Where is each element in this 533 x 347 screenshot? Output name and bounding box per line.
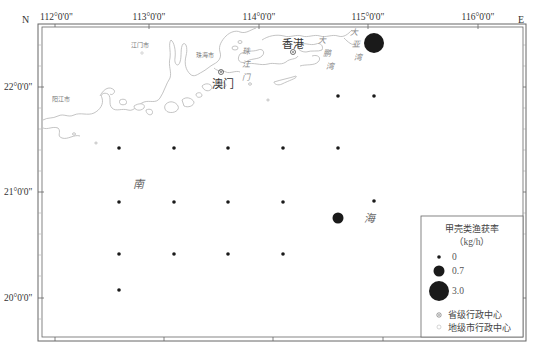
label-dapeng-2: 鹏 (323, 49, 332, 58)
label-hongkong: 香港 (282, 38, 304, 51)
provincial-center-legend-dot (438, 314, 439, 315)
label-daya-3: 湾 (354, 53, 364, 62)
label-zhuhai: 珠海市 (196, 51, 214, 59)
crustacean-catch-rate-map: N E 112°0'0" 113°0'0" 114°0'0" 115°0'0" … (0, 0, 533, 347)
legend-size-0-7-label: 0.7 (452, 266, 464, 276)
label-dapeng-3: 湾 (326, 62, 336, 71)
station-point (117, 288, 121, 292)
lat-tick-20: 20°0'0" (4, 293, 33, 303)
stations (117, 33, 384, 292)
station-point (226, 252, 230, 256)
lat-tick-21: 21°0'0" (4, 187, 33, 197)
station-point-3-0 (364, 33, 384, 53)
station-point-0-7 (333, 213, 344, 224)
label-daya-1: 大 (350, 28, 359, 37)
station-point (172, 200, 176, 204)
label-jiangmen: 江门市 (131, 41, 149, 49)
place-labels: 江门市 珠海市 阳江市 澳门 香港 珠 江 门 大 鹏 湾 大 亚 湾 南 海 (52, 28, 377, 225)
station-point (172, 252, 176, 256)
label-daya-2: 亚 (352, 40, 362, 49)
lon-tick-116: 116°0'0" (462, 12, 495, 22)
lon-tick-115: 115°0'0" (352, 12, 385, 22)
north-label: N (22, 14, 29, 25)
legend-size-3-0-icon (429, 281, 449, 301)
lat-tick-22: 22°0'0" (4, 82, 33, 92)
label-macau: 澳门 (212, 77, 234, 91)
label-south: 南 (133, 178, 146, 191)
station-point (372, 199, 376, 203)
station-point (281, 146, 285, 150)
station-point (117, 252, 121, 256)
lon-tick-114: 114°0'0" (243, 12, 276, 22)
coastline (43, 28, 356, 138)
label-sea: 海 (364, 212, 377, 225)
legend-title: 甲壳类渔获率 (445, 223, 499, 234)
legend-prefecture-center: 地级市行政中心 (448, 322, 511, 333)
station-point (226, 200, 230, 204)
legend-size-0-icon (437, 255, 441, 259)
label-pearl-river-3: 门 (242, 73, 251, 82)
east-label: E (518, 14, 524, 25)
legend: 甲壳类渔获率 （kg/h） 0 0.7 3.0 省级行政中心 地级市行政中心 (421, 216, 523, 337)
lon-tick-113: 113°0'0" (133, 12, 166, 22)
label-pearl-river-1: 珠 (242, 47, 251, 56)
station-point (281, 252, 285, 256)
station-point (117, 200, 121, 204)
station-point (372, 94, 376, 98)
lon-tick-112: 112°0'0" (40, 12, 73, 22)
prefecture-center-icon (141, 52, 143, 54)
legend-size-3-0-label: 3.0 (452, 286, 464, 296)
station-point (336, 94, 340, 98)
provincial-center-dot (292, 51, 294, 53)
station-point (117, 146, 121, 150)
station-point (336, 146, 340, 150)
label-dapeng-1: 大 (318, 36, 327, 45)
label-yangjiang: 阳江市 (52, 95, 70, 103)
legend-provincial-center: 省级行政中心 (448, 309, 502, 320)
station-point (226, 146, 230, 150)
provincial-center-dot (220, 71, 222, 73)
legend-size-0-label: 0 (452, 252, 457, 262)
label-pearl-river-2: 江 (242, 60, 251, 69)
islands (73, 41, 297, 145)
legend-unit: （kg/h） (454, 236, 491, 247)
legend-size-0-7-icon (434, 266, 445, 277)
station-point (281, 200, 285, 204)
station-point (172, 146, 176, 150)
